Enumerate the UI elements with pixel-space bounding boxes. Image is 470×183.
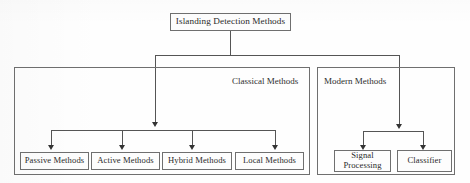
node-label: Islanding Detection Methods bbox=[176, 17, 285, 27]
node-label: Local Methods bbox=[243, 156, 296, 165]
node-islanding-detection-methods[interactable]: Islanding Detection Methods bbox=[170, 13, 291, 31]
node-local-methods[interactable]: Local Methods bbox=[235, 152, 304, 170]
node-passive-methods[interactable]: Passive Methods bbox=[20, 152, 89, 170]
node-label: Active Methods bbox=[97, 156, 154, 165]
connector-classical-bus bbox=[51, 130, 276, 131]
node-active-methods[interactable]: Active Methods bbox=[91, 152, 160, 170]
connector-top-bus bbox=[155, 55, 400, 56]
group-label-classical-methods: Classical Methods bbox=[232, 76, 298, 86]
arrowhead-hybrid bbox=[189, 145, 195, 150]
node-label: Hybrid Methods bbox=[168, 156, 226, 165]
connector-modern-bus bbox=[363, 131, 424, 132]
diagram-canvas: Islanding Detection Methods Classical Me… bbox=[0, 0, 470, 183]
node-label-line-2: Processing bbox=[343, 161, 381, 171]
arrowhead-passive bbox=[48, 145, 54, 150]
node-label: Classifier bbox=[408, 156, 442, 165]
arrowhead-local bbox=[272, 145, 278, 150]
node-label: Passive Methods bbox=[25, 156, 85, 165]
node-classifier[interactable]: Classifier bbox=[397, 150, 452, 172]
node-hybrid-methods[interactable]: Hybrid Methods bbox=[162, 152, 232, 170]
connector-root-stem bbox=[230, 31, 231, 55]
node-signal-processing[interactable]: Signal Processing bbox=[334, 150, 391, 172]
arrowhead-active bbox=[119, 145, 125, 150]
group-label-modern-methods: Modern Methods bbox=[324, 76, 386, 86]
